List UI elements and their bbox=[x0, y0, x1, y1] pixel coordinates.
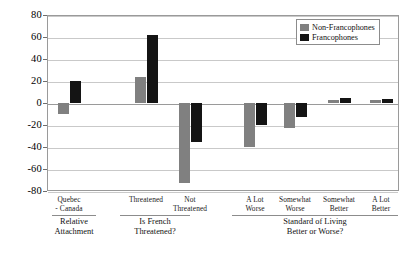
y-axis-tick-label: 40 bbox=[2, 54, 42, 64]
y-axis-tick-label: -60 bbox=[2, 164, 42, 174]
legend-item: Francophones bbox=[300, 32, 375, 42]
gridline bbox=[48, 192, 398, 193]
y-axis-tick-label: 80 bbox=[2, 10, 42, 20]
bar bbox=[147, 35, 158, 103]
legend-label: Francophones bbox=[312, 33, 358, 42]
bar bbox=[58, 103, 69, 114]
legend-swatch-icon bbox=[300, 24, 309, 31]
bar bbox=[244, 103, 255, 147]
group-label: Is FrenchThreatened? bbox=[95, 217, 215, 236]
bar bbox=[191, 103, 202, 142]
legend-swatch-icon bbox=[300, 34, 309, 41]
category-label: Quebec- Canada bbox=[39, 196, 99, 213]
bar bbox=[370, 100, 381, 103]
bar bbox=[296, 103, 307, 117]
y-axis-tick-label: 0 bbox=[2, 98, 42, 108]
bar bbox=[340, 98, 351, 104]
y-axis-tick-label: -20 bbox=[2, 120, 42, 130]
bar-chart: 806040200-20-40-60-80 Quebec- CanadaThre… bbox=[0, 0, 412, 255]
y-axis-tick-label: -40 bbox=[2, 142, 42, 152]
y-axis-tick-label: -80 bbox=[2, 186, 42, 196]
bar bbox=[382, 99, 393, 103]
bar bbox=[135, 77, 146, 103]
category-label: A LotBetter bbox=[351, 196, 411, 213]
bar bbox=[256, 103, 267, 125]
y-axis-tick-label: 60 bbox=[2, 32, 42, 42]
bar bbox=[179, 103, 190, 183]
legend-label: Non-Francophones bbox=[312, 23, 375, 32]
group-label: Standard of LivingBetter or Worse? bbox=[255, 217, 375, 236]
category-label: NotThreatened bbox=[160, 196, 220, 213]
group-divider bbox=[232, 215, 398, 216]
group-divider bbox=[120, 215, 190, 216]
group-divider bbox=[52, 215, 96, 216]
y-axis-tick-mark bbox=[43, 191, 47, 192]
legend: Non-Francophones Francophones bbox=[296, 19, 380, 45]
bar bbox=[70, 81, 81, 103]
legend-item: Non-Francophones bbox=[300, 22, 375, 32]
bar bbox=[284, 103, 295, 128]
y-axis-tick-label: 20 bbox=[2, 76, 42, 86]
bar bbox=[328, 100, 339, 103]
